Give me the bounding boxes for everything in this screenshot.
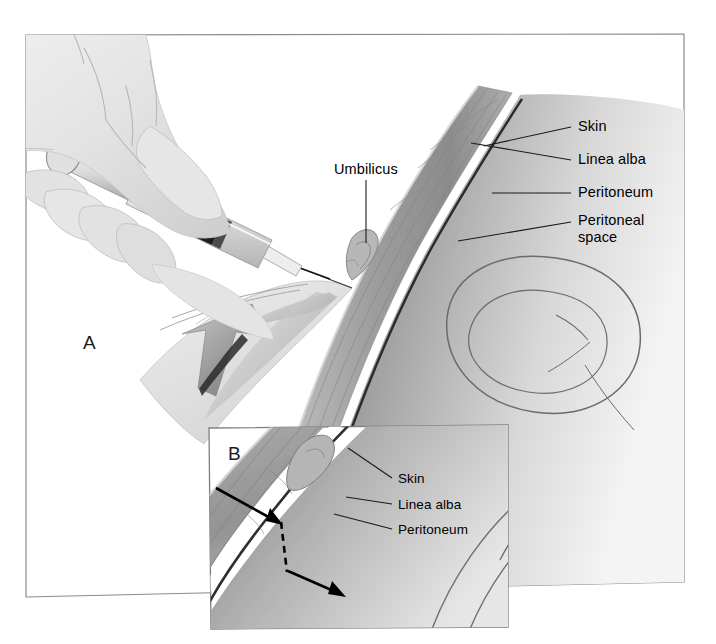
figure-canvas: A Umbilicus Skin Linea alba Peritoneum P… xyxy=(0,0,716,644)
panel-letter-b: B xyxy=(228,443,241,465)
illustration-svg xyxy=(0,0,716,644)
label-b-linea-alba: Linea alba xyxy=(398,497,461,513)
label-linea-alba: Linea alba xyxy=(578,151,646,168)
label-peritoneal-space-line2: space xyxy=(578,229,617,246)
label-b-peritoneum: Peritoneum xyxy=(398,522,468,538)
label-skin: Skin xyxy=(578,118,607,135)
label-b-skin: Skin xyxy=(398,471,425,487)
panel-letter-a: A xyxy=(83,332,96,354)
label-peritoneal-space-line1: Peritoneal xyxy=(578,212,644,229)
label-umbilicus: Umbilicus xyxy=(334,161,398,178)
label-peritoneum: Peritoneum xyxy=(578,184,653,201)
